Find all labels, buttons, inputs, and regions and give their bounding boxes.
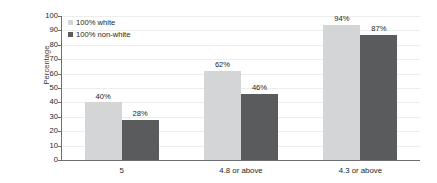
bar-value-label: 87% bbox=[371, 25, 386, 33]
y-axis-tick-label: 30 bbox=[32, 113, 58, 121]
y-axis-tick-label: 20 bbox=[32, 127, 58, 135]
y-axis-tick-label: 60 bbox=[32, 70, 58, 78]
legend-swatch-icon bbox=[68, 20, 73, 25]
bar-value-label: 62% bbox=[215, 61, 230, 69]
y-axis-tick-mark bbox=[58, 102, 61, 103]
bar-value-label: 94% bbox=[334, 15, 349, 23]
y-axis-tick-mark bbox=[58, 160, 61, 161]
bar-value-label: 46% bbox=[252, 84, 267, 92]
legend-label: 100% non-white bbox=[76, 31, 130, 39]
x-axis-line bbox=[61, 160, 420, 161]
y-axis-tick-mark bbox=[58, 45, 61, 46]
y-axis-tick-mark bbox=[58, 74, 61, 75]
chart-legend: 100% white 100% non-white bbox=[68, 17, 130, 41]
legend-item-non-white[interactable]: 100% non-white bbox=[68, 29, 130, 40]
y-axis-tick-label: 40 bbox=[32, 98, 58, 106]
y-axis-tick-label: 10 bbox=[32, 142, 58, 150]
legend-item-white[interactable]: 100% white bbox=[68, 17, 130, 28]
bar[interactable]: 94% bbox=[323, 25, 360, 160]
bar-group: 94%87% bbox=[323, 16, 397, 160]
y-axis-tick-mark bbox=[58, 146, 61, 147]
y-axis-tick-label: 90 bbox=[32, 26, 58, 34]
y-axis-tick-mark bbox=[58, 59, 61, 60]
y-axis-tick-label: 0 bbox=[32, 156, 58, 164]
y-axis-tick-mark bbox=[58, 131, 61, 132]
bar[interactable]: 46% bbox=[241, 94, 278, 160]
y-axis-tick-mark bbox=[58, 117, 61, 118]
bar-value-label: 40% bbox=[96, 93, 111, 101]
x-axis-category-label: 4.8 or above bbox=[181, 167, 300, 175]
y-axis-tick-label: 70 bbox=[32, 55, 58, 63]
bar[interactable]: 40% bbox=[85, 102, 122, 160]
bar[interactable]: 62% bbox=[204, 71, 241, 160]
x-axis-category-label: 4.3 or above bbox=[301, 167, 420, 175]
bar[interactable]: 28% bbox=[122, 120, 159, 160]
bar-group: 62%46% bbox=[204, 16, 278, 160]
x-axis-category-label: 5 bbox=[62, 167, 181, 175]
y-axis-tick-label: 80 bbox=[32, 41, 58, 49]
bar-value-label: 28% bbox=[133, 110, 148, 118]
y-axis-tick-mark bbox=[58, 88, 61, 89]
y-axis-tick-mark bbox=[58, 30, 61, 31]
bar[interactable]: 87% bbox=[360, 35, 397, 160]
y-axis-tick-label: 50 bbox=[32, 84, 58, 92]
y-axis-tick-mark bbox=[58, 16, 61, 17]
legend-swatch-icon bbox=[68, 32, 73, 37]
y-axis-tick-label: 100 bbox=[32, 12, 58, 20]
bar-chart: Percentage 1009080706050403020100 40%28%… bbox=[0, 0, 437, 183]
legend-label: 100% white bbox=[76, 19, 115, 27]
